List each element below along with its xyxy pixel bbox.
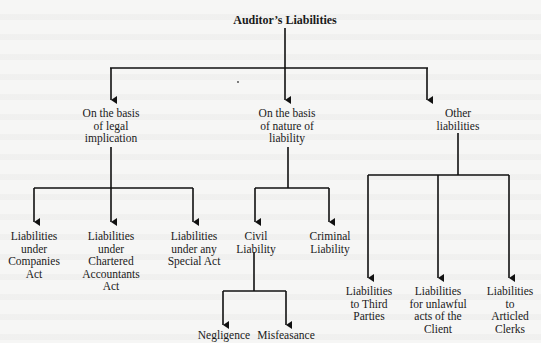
node-unlawful-acts-client: Liabilities for unlawful acts of the Cli… — [409, 285, 466, 335]
node-nature-of-liability: On the basis of nature of liability — [259, 107, 316, 145]
node-third-parties: Liabilities to Third Parties — [346, 285, 393, 323]
root-node-auditors-liabilities: Auditor’s Liabilities — [233, 14, 336, 27]
node-misfeasance: Misfeasance — [257, 329, 314, 342]
node-companies-act: Liabilities under Companies Act — [8, 230, 60, 280]
node-chartered-accountants-act: Liabilities under Chartered Accountants … — [82, 230, 139, 293]
node-civil-liability: Civil Liability — [236, 230, 276, 255]
node-articled-clerks: Liabilities to Articled Clerks — [487, 285, 534, 335]
node-criminal-liability: Criminal Liability — [310, 230, 351, 255]
node-legal-implication: On the basis of legal implication — [83, 107, 140, 145]
node-special-act: Liabilities under any Special Act — [168, 230, 221, 268]
node-other-liabilities: Other liabilities — [437, 107, 480, 132]
node-negligence: Negligence — [198, 329, 250, 342]
